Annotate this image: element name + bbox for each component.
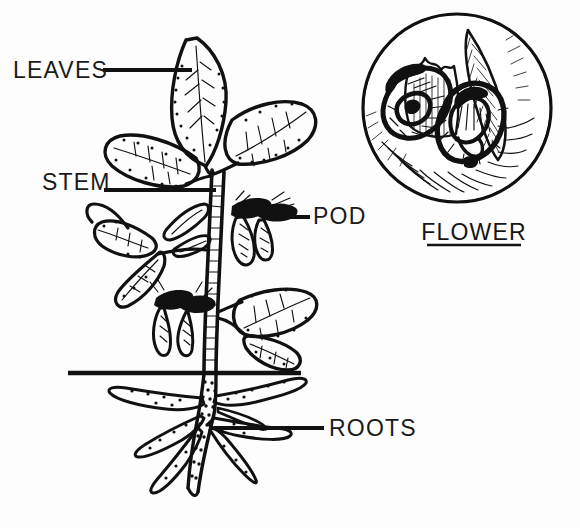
label-flower: FLOWER [421,219,527,245]
label-leaves: LEAVES [13,57,108,83]
diagram-canvas: LEAVES STEM POD ROOTS FLOWER [0,0,580,528]
label-stem: STEM [42,169,111,195]
label-roots: ROOTS [329,415,417,441]
label-pod: POD [313,203,366,229]
plant-parts-diagram: LEAVES STEM POD ROOTS FLOWER [0,0,580,528]
